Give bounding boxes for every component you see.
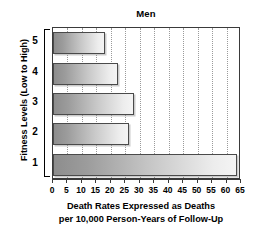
y-tick-label-3: 3 (28, 96, 42, 107)
x-tick (139, 179, 140, 183)
x-tick (226, 179, 227, 183)
x-tick (240, 179, 241, 183)
x-tick (52, 179, 53, 183)
bar-chart: Men 05101520253035404550556065 54321 Fit… (0, 0, 275, 245)
y-tick-label-1: 1 (28, 157, 42, 168)
bar-level-4[interactable] (53, 63, 118, 85)
x-tick (168, 179, 169, 183)
bar-level-2[interactable] (53, 123, 129, 145)
bar-level-1[interactable] (53, 154, 237, 176)
bar-row (53, 93, 240, 115)
x-tick (182, 179, 183, 183)
bar-row (53, 32, 240, 54)
plot-area (52, 27, 240, 179)
x-axis-title-line2: per 10,000 Person-Years of Follow-Up (59, 214, 223, 224)
chart-title: Men (52, 8, 240, 19)
x-tick (124, 179, 125, 183)
bar-row (53, 63, 240, 85)
x-tick (95, 179, 96, 183)
y-axis-bracket (44, 29, 50, 177)
x-tick (153, 179, 154, 183)
y-axis-title: Fitness Levels (Low to High) (19, 20, 29, 180)
x-tick-label: 65 (228, 185, 252, 195)
y-tick-label-4: 4 (28, 66, 42, 77)
x-axis-title-line1: Death Rates Expressed as Deaths (67, 201, 215, 211)
y-tick-label-5: 5 (28, 35, 42, 46)
x-tick (110, 179, 111, 183)
x-tick (211, 179, 212, 183)
bar-level-5[interactable] (53, 32, 105, 54)
bar-level-3[interactable] (53, 93, 134, 115)
x-axis-title: Death Rates Expressed as Deaths per 10,0… (16, 200, 266, 225)
bar-row (53, 154, 240, 176)
x-tick (81, 179, 82, 183)
x-tick (197, 179, 198, 183)
x-tick (66, 179, 67, 183)
y-tick-label-2: 2 (28, 126, 42, 137)
bar-row (53, 123, 240, 145)
